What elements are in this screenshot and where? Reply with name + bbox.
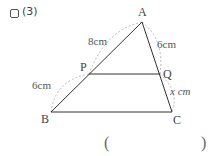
triangle-figure: A P Q B C 8cm 6cm 6cm x cm ( ) xyxy=(0,0,210,156)
label-p: P xyxy=(80,60,87,74)
label-c: C xyxy=(173,113,181,127)
measure-aq: 6cm xyxy=(157,38,176,50)
measure-qc: x cm xyxy=(169,85,191,97)
label-a: A xyxy=(138,5,147,19)
answer-paren-close: ) xyxy=(201,134,206,152)
label-b: B xyxy=(41,112,49,126)
answer-paren-open: ( xyxy=(104,134,109,152)
measure-pb: 6cm xyxy=(32,79,51,91)
measure-ap: 8cm xyxy=(88,35,107,47)
label-q: Q xyxy=(163,67,172,81)
